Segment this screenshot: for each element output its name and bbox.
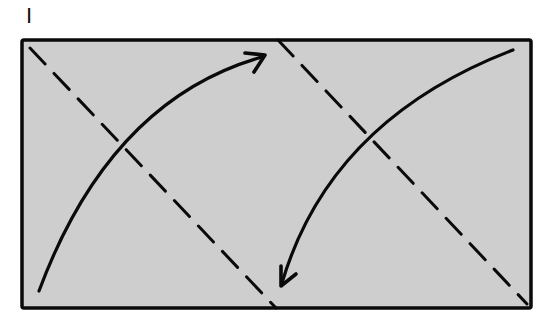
folding-diagram bbox=[0, 0, 549, 334]
